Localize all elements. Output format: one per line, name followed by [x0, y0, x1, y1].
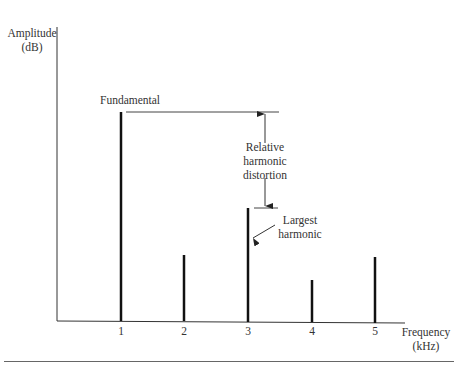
fundamental-label: Fundamental: [100, 93, 160, 107]
footer-divider: [4, 361, 454, 362]
spectrum-plot: [0, 0, 462, 369]
largest-label-line1: Largest: [274, 213, 326, 227]
x-tick-3: 3: [245, 325, 251, 337]
distortion-label-line2: harmonic: [234, 154, 296, 168]
largest-harmonic-arrow: [253, 225, 275, 238]
y-axis-label: Amplitude (dB): [4, 26, 60, 54]
x-axis-label: Frequency (kHz): [397, 325, 455, 353]
x-tick-5: 5: [372, 325, 378, 337]
x-tick-4: 4: [309, 325, 315, 337]
x-axis: [57, 321, 405, 323]
distortion-label-line1: Relative: [234, 140, 296, 154]
x-axis-label-line1: Frequency: [397, 325, 455, 339]
x-tick-2: 2: [181, 325, 187, 337]
largest-label-line2: harmonic: [274, 227, 326, 241]
x-axis-label-line2: (kHz): [397, 339, 455, 353]
relative-distortion-label: Relative harmonic distortion: [234, 140, 296, 182]
x-tick-1: 1: [118, 325, 124, 337]
distortion-label-line3: distortion: [234, 168, 296, 182]
y-axis-label-line2: (dB): [4, 40, 60, 54]
largest-harmonic-label: Largest harmonic: [274, 213, 326, 241]
y-axis-label-line1: Amplitude: [4, 26, 60, 40]
